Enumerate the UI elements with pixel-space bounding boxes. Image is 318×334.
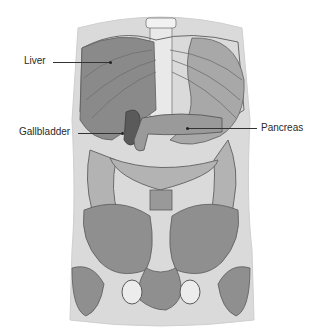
anatomy-diagram: Liver Gallbladder Pancreas [0, 0, 318, 334]
label-gallbladder: Gallbladder [19, 126, 70, 138]
leader-line-gallbladder [78, 133, 122, 134]
pointer-dot-liver [109, 61, 112, 64]
pointer-dot-gallbladder [121, 132, 124, 135]
label-pancreas: Pancreas [261, 122, 303, 134]
label-liver: Liver [24, 55, 46, 67]
pointer-dot-pancreas [186, 127, 189, 130]
leader-line-liver [53, 62, 110, 63]
leader-line-pancreas [187, 128, 257, 129]
torso-illustration [0, 0, 318, 334]
